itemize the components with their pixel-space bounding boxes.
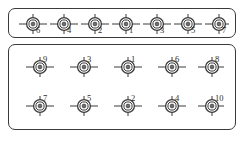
fastener-marker[interactable]: 2 bbox=[81, 12, 109, 36]
two-row-group-panel: 9 3 1 bbox=[8, 44, 236, 130]
marker-sequence-label: 3 bbox=[87, 55, 91, 64]
crosshair-circle-icon bbox=[143, 12, 171, 36]
crosshair-circle-icon bbox=[70, 94, 98, 118]
marker-sequence-label: 7 bbox=[222, 26, 226, 35]
fastener-marker[interactable]: 2 bbox=[114, 94, 142, 118]
fastener-marker[interactable]: 5 bbox=[70, 94, 98, 118]
crosshair-circle-icon bbox=[114, 55, 142, 79]
crosshair-circle-icon bbox=[19, 12, 47, 36]
fastener-marker[interactable]: 6 bbox=[158, 55, 186, 79]
marker-sequence-label: 10 bbox=[215, 94, 224, 103]
marker-sequence-label: 5 bbox=[87, 94, 91, 103]
marker-sequence-label: 1 bbox=[131, 55, 135, 64]
marker-sequence-label: 4 bbox=[175, 94, 179, 103]
marker-sequence-label: 5 bbox=[191, 26, 195, 35]
marker-sequence-label: 9 bbox=[43, 55, 47, 64]
fastener-marker[interactable]: 7 bbox=[205, 12, 233, 36]
crosshair-circle-icon bbox=[198, 55, 226, 79]
crosshair-circle-icon bbox=[158, 55, 186, 79]
fastener-marker[interactable]: 3 bbox=[143, 12, 171, 36]
crosshair-circle-icon bbox=[205, 12, 233, 36]
fastener-sequence-diagram: 6 4 2 bbox=[0, 0, 244, 142]
marker-sequence-label: 7 bbox=[43, 94, 47, 103]
marker-sequence-label: 1 bbox=[129, 26, 133, 35]
fastener-marker[interactable]: 4 bbox=[50, 12, 78, 36]
fastener-marker[interactable]: 1 bbox=[112, 12, 140, 36]
fastener-marker[interactable]: 8 bbox=[198, 55, 226, 79]
crosshair-circle-icon bbox=[174, 12, 202, 36]
fastener-marker[interactable]: 1 bbox=[114, 55, 142, 79]
single-row-group-panel: 6 4 2 bbox=[8, 8, 236, 38]
crosshair-circle-icon bbox=[50, 12, 78, 36]
fastener-marker[interactable]: 9 bbox=[26, 55, 54, 79]
crosshair-circle-icon bbox=[114, 94, 142, 118]
marker-sequence-label: 8 bbox=[215, 55, 219, 64]
marker-sequence-label: 2 bbox=[131, 94, 135, 103]
fastener-marker[interactable]: 5 bbox=[174, 12, 202, 36]
crosshair-circle-icon bbox=[70, 55, 98, 79]
fastener-marker[interactable]: 4 bbox=[158, 94, 186, 118]
marker-sequence-label: 3 bbox=[160, 26, 164, 35]
crosshair-circle-icon bbox=[26, 94, 54, 118]
marker-sequence-label: 6 bbox=[36, 26, 40, 35]
crosshair-circle-icon bbox=[112, 12, 140, 36]
fastener-marker[interactable]: 3 bbox=[70, 55, 98, 79]
fastener-marker[interactable]: 6 bbox=[19, 12, 47, 36]
marker-sequence-label: 6 bbox=[175, 55, 179, 64]
crosshair-circle-icon bbox=[26, 55, 54, 79]
fastener-marker[interactable]: 10 bbox=[198, 94, 226, 118]
marker-sequence-label: 2 bbox=[98, 26, 102, 35]
crosshair-circle-icon bbox=[158, 94, 186, 118]
crosshair-circle-icon bbox=[81, 12, 109, 36]
marker-sequence-label: 4 bbox=[67, 26, 71, 35]
fastener-marker[interactable]: 7 bbox=[26, 94, 54, 118]
